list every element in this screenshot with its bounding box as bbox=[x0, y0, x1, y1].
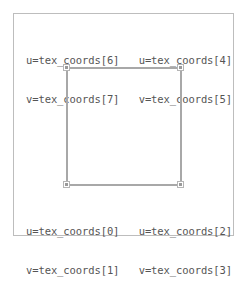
top-left-u: u=tex_coords[6] bbox=[26, 54, 119, 67]
quad-edge-bottom bbox=[67, 184, 181, 186]
bottom-left-u: u=tex_coords[0] bbox=[26, 225, 119, 238]
corner-handle-top-right[interactable] bbox=[177, 64, 184, 71]
bottom-left-label: u=tex_coords[0] v=tex_coords[1] bbox=[26, 199, 119, 281]
bottom-right-label: u=tex_coords[2] v=tex_coords[3] bbox=[139, 199, 232, 281]
quad-edge-top bbox=[67, 67, 181, 69]
quad-edge-left bbox=[66, 68, 68, 184]
corner-handle-bottom-right[interactable] bbox=[177, 181, 184, 188]
top-left-v: v=tex_coords[7] bbox=[26, 93, 119, 106]
top-left-label: u=tex_coords[6] v=tex_coords[7] bbox=[26, 28, 119, 119]
bottom-right-u: u=tex_coords[2] bbox=[139, 225, 232, 238]
bottom-left-v: v=tex_coords[1] bbox=[26, 264, 119, 277]
quad-edge-right bbox=[180, 68, 182, 184]
top-right-v: v=tex_coords[5] bbox=[139, 93, 232, 106]
corner-handle-top-left[interactable] bbox=[63, 64, 70, 71]
top-right-label: u=tex_coords[4] v=tex_coords[5] bbox=[139, 28, 232, 119]
top-right-u: u=tex_coords[4] bbox=[139, 54, 232, 67]
bottom-right-v: v=tex_coords[3] bbox=[139, 264, 232, 277]
corner-handle-bottom-left[interactable] bbox=[63, 181, 70, 188]
